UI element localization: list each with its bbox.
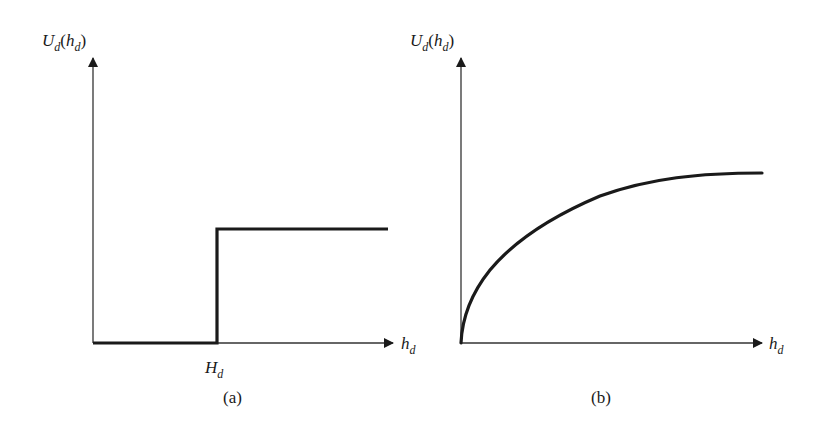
panel-b: Ud(hd) hd (b) [410,31,785,407]
threshold-tick-label: Hd [204,358,224,381]
x-axis-label-a: hd [401,334,417,357]
y-axis-label-a: Ud(hd) [42,31,86,54]
panel-a: Ud(hd) hd Hd (a) [42,31,417,407]
caption-a: (a) [223,388,242,407]
step-curve [93,229,388,343]
y-axis-label-b: Ud(hd) [410,31,454,54]
x-axis-label-b: hd [769,334,785,357]
saturating-curve [461,173,762,343]
caption-b: (b) [591,388,611,407]
figure-canvas: Ud(hd) hd Hd (a) Ud(hd) hd (b) [0,0,825,428]
